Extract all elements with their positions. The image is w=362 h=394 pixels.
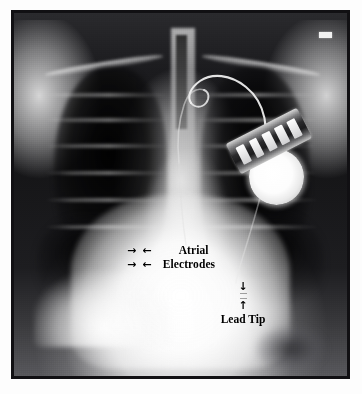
arrow-left-icon: ← [142,245,151,256]
annotation-layer: → ← Atrial → ← Electrodes ↓ ↑ Lead Tip [0,0,362,394]
arrow-up-icon: ↑ [238,300,247,311]
annotation-electrodes: → ← Electrodes [127,259,215,271]
annotation-atrial: → ← Atrial [127,245,209,257]
annotation-lead-tip: ↓ ↑ Lead Tip [205,281,281,325]
arrow-down-icon: ↓ [238,281,247,292]
arrow-right-icon: → [127,245,136,256]
figure-root: → ← Atrial → ← Electrodes ↓ ↑ Lead Tip [0,0,362,394]
annotation-label-atrial: Atrial [179,245,209,257]
arrow-right-icon: → [127,259,136,270]
arrow-left-icon: ← [142,259,151,270]
annotation-label-electrodes: Electrodes [163,259,216,271]
annotation-label-lead-tip: Lead Tip [221,313,266,325]
